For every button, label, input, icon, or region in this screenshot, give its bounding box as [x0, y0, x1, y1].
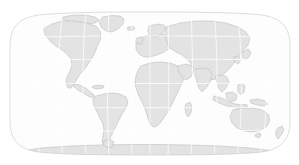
- world-map-canvas: [0, 0, 299, 165]
- world-map-figure: Robinson: [0, 0, 299, 165]
